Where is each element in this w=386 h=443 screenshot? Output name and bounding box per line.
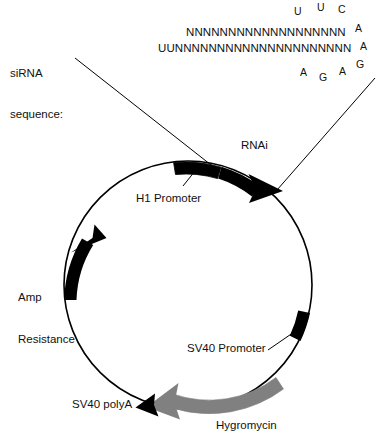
plasmid-figure: siRNA sequence: NNNNNNNNNNNNNNNNNNN UUNN… (0, 0, 386, 443)
loop-char-g2: G (319, 71, 327, 83)
amp-resistance-label-line1: Amp (18, 290, 75, 304)
sv40-promoter-label: SV40 Promoter (187, 342, 266, 356)
sirna-leader-line (75, 58, 220, 172)
loop-char-g1: G (356, 58, 364, 70)
sv40-polya-label: SV40 polyA (72, 398, 132, 412)
sv40-promoter-feature (290, 311, 310, 342)
sirna-label-line1: siRNA (10, 67, 63, 81)
sirna-label-line2: sequence: (10, 108, 63, 122)
amp-resistance-label-line2: Resistance (18, 332, 75, 346)
sirna-sense-strand: NNNNNNNNNNNNNNNNNNN (186, 26, 346, 38)
loop-char-c: C (338, 3, 346, 15)
sv40-promoter-leader-line (268, 330, 297, 350)
amp-resistance-label: Amp Resistance (18, 262, 75, 374)
hygromycin-label: Hygromycin (216, 419, 277, 433)
rnai-label: RNAi (241, 139, 268, 153)
loop-char-u2: U (317, 1, 325, 13)
sirna-antisense-strand: UUNNNNNNNNNNNNNNNNNNNNN (158, 42, 351, 54)
rnai-feature-arrow (218, 167, 283, 203)
loop-char-a2: A (360, 40, 367, 52)
loop-char-a3: A (300, 66, 307, 78)
loop-char-u1: U (294, 5, 302, 17)
h1-promoter-label: H1 Promoter (136, 192, 201, 206)
loop-char-a4: A (339, 65, 346, 77)
rnai-leader-line (277, 78, 375, 190)
sirna-label: siRNA sequence: (10, 40, 63, 148)
loop-char-a1: A (355, 22, 362, 34)
